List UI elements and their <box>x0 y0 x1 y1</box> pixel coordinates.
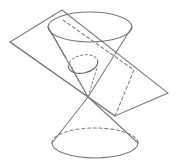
conic-section-svg: Double cone intersected by a plane (elli… <box>0 0 178 163</box>
conic-section-figure: Double cone intersected by a plane (elli… <box>0 0 178 163</box>
figure-background <box>0 0 178 163</box>
